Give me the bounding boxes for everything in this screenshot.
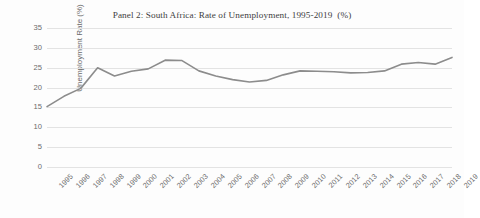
y-tick-label-30: 30 [16,44,42,52]
y-tick-label-5: 5 [16,143,42,151]
series-svg [47,28,452,167]
chart-title: Panel 2: South Africa: Rate of Unemploym… [0,10,464,20]
x-tick-label-2013: 2013 [361,172,379,190]
x-tick-label-2019: 2019 [462,172,480,190]
x-tick-label-2009: 2009 [293,172,311,190]
x-tick-label-1996: 1996 [74,172,92,190]
x-tick-label-2010: 2010 [310,172,328,190]
y-tick-label-25: 25 [16,64,42,72]
x-tick-label-2014: 2014 [377,172,395,190]
x-tick-label-2004: 2004 [209,172,227,190]
x-tick-label-1997: 1997 [91,172,109,190]
x-tick-label-2000: 2000 [141,172,159,190]
line-series-unemployment-rate [47,57,452,106]
x-tick-label-1995: 1995 [57,172,75,190]
x-tick-label-2012: 2012 [344,172,362,190]
x-tick-label-2017: 2017 [428,172,446,190]
x-tick-label-2016: 2016 [411,172,429,190]
y-tick-label-35: 35 [16,24,42,32]
y-tick-label-0: 0 [16,163,42,171]
x-tick-label-2001: 2001 [158,172,176,190]
plot-area: Unemployment Rate (%) 35302520151050 199… [47,28,452,167]
x-tick-label-2003: 2003 [192,172,210,190]
y-tick-label-15: 15 [16,103,42,111]
x-tick-label-1999: 1999 [124,172,142,190]
y-tick-label-20: 20 [16,84,42,92]
gridline-0 [47,167,452,168]
x-tick-label-2002: 2002 [175,172,193,190]
y-tick-label-10: 10 [16,123,42,131]
x-tick-label-2008: 2008 [276,172,294,190]
x-tick-label-2006: 2006 [242,172,260,190]
x-tick-label-2015: 2015 [394,172,412,190]
x-tick-label-2011: 2011 [327,172,345,190]
x-tick-label-2007: 2007 [259,172,277,190]
x-tick-label-1998: 1998 [107,172,125,190]
x-tick-label-2018: 2018 [445,172,463,190]
x-tick-label-2005: 2005 [226,172,244,190]
